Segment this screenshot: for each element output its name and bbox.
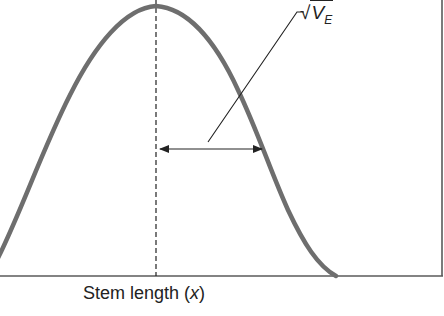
diagram-canvas: [0, 0, 444, 316]
x-axis-label: Stem length (x): [64, 283, 224, 304]
radicand: VE: [310, 0, 333, 27]
variance-subscript: E: [324, 13, 332, 27]
bell-curve-figure: √VE Stem length (x): [0, 0, 444, 316]
sqrt-ve-label: √VE: [300, 0, 333, 27]
distribution-curve: [0, 6, 336, 276]
annotation-leader-line: [208, 12, 304, 142]
variance-symbol: V: [311, 2, 324, 23]
radical-symbol: √: [300, 2, 310, 23]
x-axis-label-text: Stem length: [83, 283, 179, 303]
x-axis-variable: x: [190, 283, 199, 303]
